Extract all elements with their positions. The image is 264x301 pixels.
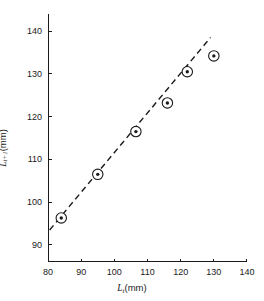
y-axis-unit: (mm) xyxy=(0,129,8,151)
data-point xyxy=(162,98,172,108)
y-tick-label: 130 xyxy=(27,69,42,78)
data-point xyxy=(209,51,219,61)
x-tick-label: 100 xyxy=(107,268,122,277)
data-point xyxy=(131,126,141,136)
y-tick-label: 110 xyxy=(28,155,42,164)
x-tick-label: 130 xyxy=(206,268,221,277)
y-tick-label: 100 xyxy=(27,198,42,207)
x-tick-label: 90 xyxy=(76,268,86,277)
y-axis-title: Lt+1(mm) xyxy=(0,129,10,167)
figure: 8090100110120130140 90100110120130140 Lt… xyxy=(0,0,264,301)
x-axis-unit: (mm) xyxy=(125,282,147,293)
scatter-plot-svg xyxy=(48,14,247,262)
y-axis-variable: L xyxy=(0,162,8,167)
x-tick-label: 120 xyxy=(173,268,188,277)
x-tick-label: 80 xyxy=(43,268,53,277)
x-axis-title: Lt(mm) xyxy=(117,283,146,296)
x-tick-label: 110 xyxy=(140,268,154,277)
y-tick-label: 140 xyxy=(27,27,42,36)
data-point xyxy=(182,67,192,77)
data-point xyxy=(56,213,66,223)
y-tick-label: 90 xyxy=(32,240,42,249)
x-tick-label: 140 xyxy=(239,268,254,277)
plot-area xyxy=(48,14,247,262)
y-axis-subscript: t+1 xyxy=(1,151,9,161)
y-tick-label: 120 xyxy=(27,112,42,121)
data-point xyxy=(93,169,103,179)
